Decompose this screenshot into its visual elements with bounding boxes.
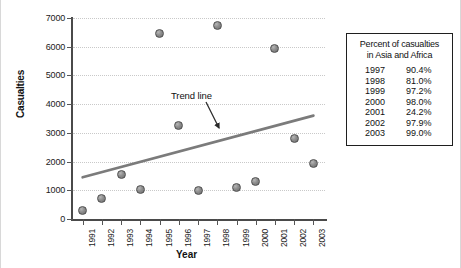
- table-cell-percent: 97.2%: [406, 86, 440, 97]
- x-tick-label: 1997: [202, 229, 212, 247]
- y-tick-label: 7000: [46, 13, 65, 23]
- y-tick-label: 4000: [46, 99, 65, 109]
- table-row: 200399.0%: [351, 128, 448, 139]
- data-point: [290, 134, 299, 143]
- x-tick-label: 2001: [279, 229, 289, 247]
- table-cell-year: 1997: [365, 65, 385, 76]
- table-body: 199790.4%199881.0%199997.2%200098.0%2001…: [351, 65, 448, 139]
- table-row: 199790.4%: [351, 65, 448, 76]
- data-point: [213, 21, 222, 30]
- table-row: 199881.0%: [351, 76, 448, 87]
- x-tick-label: 2003: [317, 229, 327, 247]
- x-tick-mark: [237, 219, 238, 225]
- data-point: [232, 183, 241, 192]
- x-tick-mark: [160, 219, 161, 225]
- y-tick-label: 2000: [46, 157, 65, 167]
- table-title-line-2: in Asia and Africa: [351, 50, 448, 61]
- scatter-chart: Casualties Year 010002000300040005000600…: [1, 0, 346, 268]
- y-tick-label: 3000: [46, 128, 65, 138]
- x-axis-title: Year: [176, 249, 197, 260]
- data-point: [117, 170, 126, 179]
- x-tick-mark: [179, 219, 180, 225]
- table-title-line-1: Percent of casualties: [351, 39, 448, 50]
- y-tick-mark: [67, 219, 73, 220]
- x-tick-label: 1992: [106, 229, 116, 247]
- data-point: [194, 186, 203, 195]
- table-cell-year: 2001: [365, 107, 385, 118]
- chart-figure: Casualties Year 010002000300040005000600…: [0, 0, 461, 268]
- table-cell-year: 1998: [365, 76, 385, 87]
- table-cell-percent: 24.2%: [406, 107, 440, 118]
- x-tick-label: 1995: [164, 229, 174, 247]
- x-tick-label: 1998: [221, 229, 231, 247]
- x-tick-mark: [313, 219, 314, 225]
- x-tick-mark: [275, 219, 276, 225]
- table-cell-year: 2000: [365, 97, 385, 108]
- table-cell-percent: 99.0%: [406, 128, 440, 139]
- x-tick-label: 1996: [183, 229, 193, 247]
- x-tick-label: 1994: [144, 229, 154, 247]
- x-tick-label: 2002: [298, 229, 308, 247]
- x-tick-label: 1993: [125, 229, 135, 247]
- y-tick-label: 1000: [46, 185, 65, 195]
- table-cell-percent: 97.9%: [406, 118, 440, 129]
- x-tick-mark: [256, 219, 257, 225]
- table-cell-year: 1999: [365, 86, 385, 97]
- table-cell-year: 2002: [365, 118, 385, 129]
- x-tick-mark: [140, 219, 141, 225]
- y-tick-label: 0: [60, 214, 65, 224]
- table-row: 200098.0%: [351, 97, 448, 108]
- data-point: [309, 159, 318, 168]
- table-cell-year: 2003: [365, 128, 385, 139]
- plot-area: 01000200030004000500060007000 1991199219…: [73, 18, 325, 219]
- table-row: 200124.2%: [351, 107, 448, 118]
- table-title: Percent of casualties in Asia and Africa: [351, 39, 448, 61]
- data-point: [136, 185, 145, 194]
- x-tick-mark: [217, 219, 218, 225]
- table-cell-percent: 98.0%: [406, 97, 440, 108]
- y-tick-label: 6000: [46, 42, 65, 52]
- table-row: 200297.9%: [351, 118, 448, 129]
- percent-casualties-table: Percent of casualties in Asia and Africa…: [346, 33, 453, 146]
- table-row: 199997.2%: [351, 86, 448, 97]
- x-tick-label: 1999: [241, 229, 251, 247]
- y-tick-label: 5000: [46, 70, 65, 80]
- x-tick-label: 2000: [260, 229, 270, 247]
- y-axis-title: Casualties: [15, 70, 26, 118]
- x-tick-mark: [198, 219, 199, 225]
- x-tick-mark: [102, 219, 103, 225]
- x-tick-mark: [83, 219, 84, 225]
- x-tick-label: 1991: [87, 229, 97, 247]
- x-tick-mark: [121, 219, 122, 225]
- table-cell-percent: 90.4%: [406, 65, 440, 76]
- trend-line-annotation-label: Trend line: [171, 90, 212, 101]
- x-tick-mark: [294, 219, 295, 225]
- table-cell-percent: 81.0%: [406, 76, 440, 87]
- data-point: [78, 206, 87, 215]
